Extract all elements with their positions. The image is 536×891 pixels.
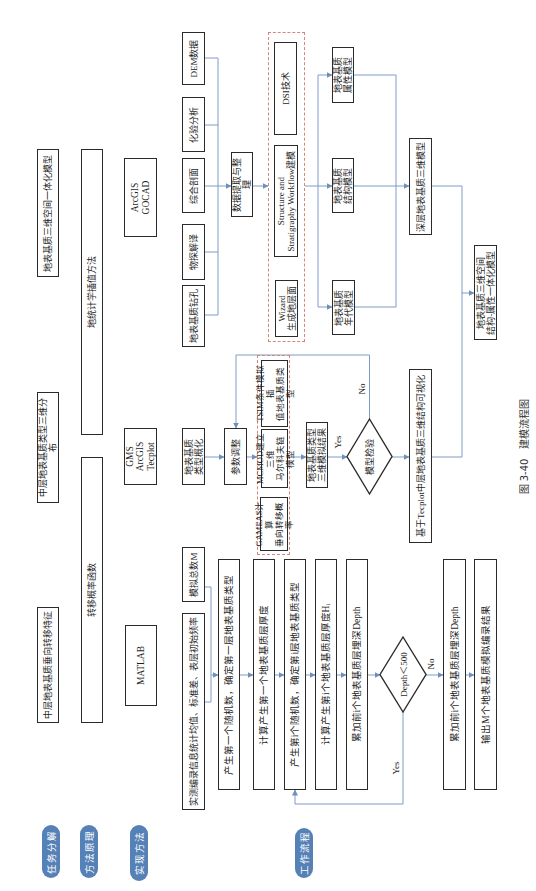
tprogs-mcmod: MCMOD建立三维 马尔科夫链模型 [261, 429, 288, 488]
modeling-flowchart: 任务分解 方法原理 实现方法 工作流程 中层地表基质垂向转移特征 中层地表基质类… [0, 0, 536, 891]
markov-step-4: 计算产生第i个地表基质层厚度Hᵢ [315, 559, 337, 790]
figure-title: 建模流程图 [516, 399, 531, 449]
row-label-method: 方法原理 [80, 825, 98, 878]
model-attribute: 地表基质 属性模型 [332, 47, 354, 103]
row-label-task: 任务分解 [42, 825, 60, 878]
figure-number: 图 3-40 [516, 459, 531, 495]
task-integrated-model: 地表基质三维空间一体化模型 [37, 149, 59, 277]
decision-depth-yes-label: Yes [391, 757, 401, 779]
decision-model-check-yes-label: Yes [333, 431, 343, 453]
connector-line [432, 186, 462, 457]
source-geophysics: 物探解译 [182, 224, 205, 280]
markov-input-sim-total: 模拟总数M [182, 547, 205, 602]
markov-output-results: 输出M个地表基质模拟编录结果 [474, 559, 497, 790]
decision-model-check-no-label: No [357, 380, 367, 398]
tprogs-tecplot-visualization: 基于Tecplot中层地表基质三维结构可视化 [409, 369, 432, 543]
decision-depth-label: Depth＜500 [380, 637, 426, 712]
source-sections: 综合剖面 [182, 158, 205, 213]
markov-step-2: 计算产生第一个地表基质层厚度 [253, 559, 275, 790]
method-geostatistics: 地统计学插值方法 [81, 149, 103, 435]
source-dem: DEM数据 [182, 32, 205, 85]
task-3d-type-distribution: 中层地表基质类型三维分布 [37, 392, 59, 503]
decision-depth-no-label: No [426, 655, 436, 673]
source-lab-analysis: 化验分析 [182, 97, 205, 152]
tprogs-tsim: TSIM条件模拟插 值地表基质类型 [261, 360, 288, 427]
source-boreholes: 地表基质钻孔 [182, 285, 205, 347]
connector-line [205, 587, 211, 702]
tprogs-parameter-adjust: 参数调整 [224, 428, 247, 485]
tprogs-type-generalization: 地表基质 类型概化 [182, 428, 205, 485]
gocad-dsi: DSI技术 [274, 42, 297, 135]
markov-input-statistics: 实测编录信息统计均值、标准差、表层初始频率 [182, 613, 205, 810]
gocad-wizard: Wizard 生成地层面 [275, 280, 298, 337]
tool-matlab: MATLAB [125, 625, 157, 706]
markov-step-5: 累加前i个地表基质层埋深Depth [346, 559, 368, 790]
tool-arcgis-gocad: ArcGIS GOCAD [124, 158, 157, 237]
deep-3d-model: 深层地表基质三维模型 [409, 138, 432, 235]
figure-caption: 图 3-40 建模流程图 [516, 395, 530, 498]
model-age: 地表基质 年代模型 [332, 280, 355, 335]
tprogs-simulation-result: 地表基质类型 三维模拟结果 [306, 422, 328, 488]
markov-step-1: 产生第一个随机数，确定第一层地表基质类型 [218, 559, 240, 790]
gocad-data-extraction: 数据提取与整理 [231, 152, 253, 217]
tool-gms-arcgis-tecplot: GMS ArcGIS Tecplot [124, 428, 157, 485]
task-vertical-transition: 中层地表基质垂向转移特征 [37, 607, 59, 723]
decision-model-check-label: 模型检验 [347, 419, 392, 494]
row-label-workflow: 工作流程 [295, 828, 313, 878]
markov-accumulate-depth: 累加前i个地表基质层埋深Depth [443, 559, 466, 790]
markov-step-3: 产生第i个随机数，确定第i层地表基质类型 [284, 559, 306, 790]
tprogs-gameas: GAMEAS计算 垂向转移概率 [260, 497, 288, 551]
method-transition-probability: 转移概率函数 [81, 457, 103, 723]
model-structure: 地表基质 结构模型 [332, 158, 354, 213]
gocad-structure-stratigraphy: Structure and Stratigraphy Workflow建模 [274, 145, 298, 257]
row-label-implementation: 实现方法 [130, 825, 148, 881]
integrated-3d-model: 地表基质三维空间 结构-属性一体化模型 [474, 245, 497, 340]
